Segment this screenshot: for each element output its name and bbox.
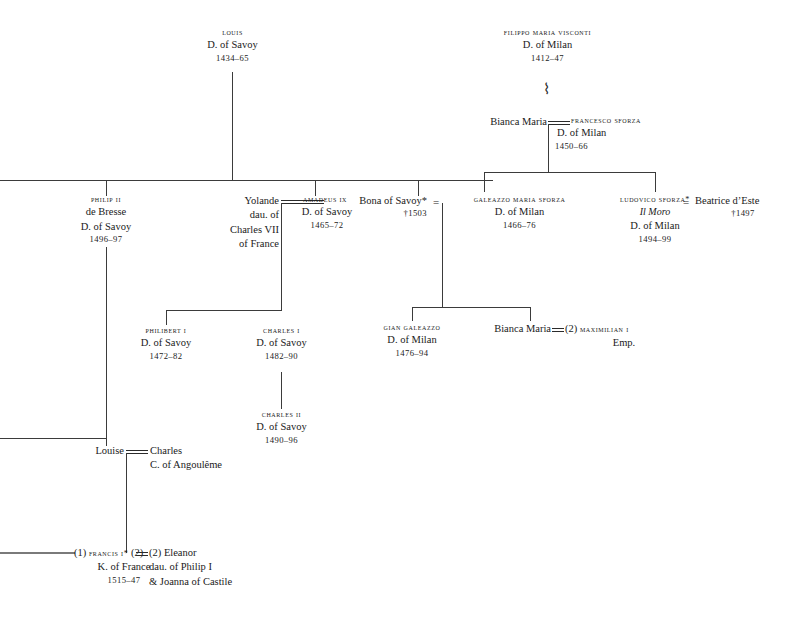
francis-i-name: FRANCIS I*: [89, 549, 128, 558]
connector-angouleme-down: [126, 453, 127, 553]
beatrice-dates: †1497: [695, 208, 791, 220]
connector-bianca-jr-up: [530, 307, 531, 321]
node-charles-i: CHARLES I D. of Savoy 1482–90: [229, 325, 334, 363]
bona-name: Bona of Savoy*: [330, 194, 427, 208]
gian-galeazzo-dates: 1476–94: [352, 348, 472, 360]
philibert-dates: 1472–82: [106, 351, 226, 363]
louis-dates: 1434–65: [165, 53, 300, 65]
node-louis: LOUIS D. of Savoy 1434–65: [165, 27, 300, 65]
node-bianca-maria-jr: Bianca Maria: [452, 322, 551, 336]
node-beatrice-deste: Beatrice d’Este †1497: [695, 194, 791, 220]
node-filippo-maria-visconti: FILIPPO MARIA VISCONTI D. of Milan 1412–…: [455, 27, 640, 65]
ludovico-realm: D. of Milan: [580, 219, 730, 233]
connector-charles-i-down: [281, 372, 282, 409]
eleanor-prefix: (2): [149, 547, 161, 558]
yolande-line3: Charles VII: [198, 223, 279, 237]
francesco-name: FRANCESCO SFORZA: [551, 115, 751, 126]
marriage-bar-francis-eleanor: [136, 552, 148, 556]
bianca-maria-sr-name: Bianca Maria: [420, 115, 547, 129]
philip-ii-name: PHILIP II: [42, 194, 170, 205]
amadeus-dates: 1465–72: [270, 220, 384, 232]
ludovico-dates: 1494–99: [580, 234, 730, 246]
yolande-name: Yolande: [198, 194, 279, 208]
philip-ii-realm: D. of Savoy: [42, 220, 170, 234]
philip-ii-dates: 1496–97: [42, 234, 170, 246]
maximilian-realm: Emp.: [583, 336, 665, 350]
charles-angouleme-realm: C. of Angoulême: [150, 458, 260, 472]
louise-name: Louise: [60, 444, 124, 458]
node-galeazzo: GALEAZZO MARIA SFORZA D. of Milan 1466–7…: [444, 194, 595, 232]
charles-i-name: CHARLES I: [229, 325, 334, 336]
node-eleanor: (2) Eleanor dau. of Philip I & Joanna of…: [149, 546, 269, 589]
eleanor-name: Eleanor: [164, 547, 197, 558]
eleanor-headline: (2) Eleanor: [149, 546, 269, 560]
louis-realm: D. of Savoy: [165, 38, 300, 52]
eleanor-line3: & Joanna of Castile: [149, 575, 269, 589]
charles-ii-realm: D. of Savoy: [229, 420, 334, 434]
connector-philibert-drop: [166, 310, 167, 325]
connector-louis-down: [232, 72, 233, 180]
louis-name: LOUIS: [165, 27, 300, 38]
maximilian-prefix: (2): [565, 323, 577, 334]
marriage-bar-bianca-maximilian: [552, 328, 564, 332]
illegitimate-descent-squiggle: ⌇: [543, 82, 550, 97]
charles-angouleme-name: Charles: [150, 444, 260, 458]
sibling-bar-sforza-children: [412, 307, 530, 308]
descent-bar-louise: [0, 438, 106, 439]
filippo-name: FILIPPO MARIA VISCONTI: [455, 27, 640, 38]
marriage-symbol-bona-galeazzo: =: [433, 197, 439, 208]
node-philibert-i: PHILIBERT I D. of Savoy 1472–82: [106, 325, 226, 363]
francis-i-prefix: (1): [74, 547, 86, 558]
philibert-name: PHILIBERT I: [106, 325, 226, 336]
bianca-maria-jr-name: Bianca Maria: [452, 322, 551, 336]
filippo-realm: D. of Milan: [455, 38, 640, 52]
marriage-bar-louise-charles: [126, 450, 148, 454]
node-yolande: Yolande dau. of Charles VII of France: [198, 194, 279, 252]
charles-i-realm: D. of Savoy: [229, 336, 334, 350]
eleanor-line2: dau. of Philip I: [149, 560, 269, 574]
node-bianca-maria-sr: Bianca Maria: [420, 115, 547, 129]
node-francesco-sforza: FRANCESCO SFORZA D. of Milan 1450–66: [551, 115, 751, 153]
connector-galeazzo-down: [442, 203, 443, 307]
node-maximilian-i: (2) MAXIMILIAN I Emp.: [565, 322, 685, 351]
galeazzo-name: GALEAZZO MARIA SFORZA: [444, 194, 595, 205]
node-charles-ii: CHARLES II D. of Savoy 1490–96: [229, 409, 334, 447]
maximilian-prefix-name: (2) MAXIMILIAN I: [565, 322, 685, 336]
maximilian-name: MAXIMILIAN I: [580, 325, 629, 334]
connector-ludovico-up: [655, 172, 656, 192]
connector-sforza-down: [548, 124, 549, 172]
connector-gian-galeazzo-up: [412, 307, 413, 321]
charles-ii-name: CHARLES II: [229, 409, 334, 420]
genealogy-chart: LOUIS D. of Savoy 1434–65 FILIPPO MARIA …: [0, 0, 793, 626]
galeazzo-dates: 1466–76: [444, 220, 595, 232]
connector-amadeus-down: [281, 203, 282, 310]
galeazzo-realm: D. of Milan: [444, 205, 595, 219]
filippo-dates: 1412–47: [455, 53, 640, 65]
francesco-dates: 1450–66: [551, 141, 751, 153]
node-charles-angouleme: Charles C. of Angoulême: [150, 444, 260, 473]
sibling-bar-savoy: [0, 180, 493, 181]
yolande-line2: dau. of: [198, 208, 279, 222]
node-philip-ii: PHILIP II de Bresse D. of Savoy 1496–97: [42, 194, 170, 246]
bona-dates: †1503: [330, 208, 427, 220]
philibert-realm: D. of Savoy: [106, 336, 226, 350]
beatrice-name: Beatrice d’Este: [695, 194, 791, 208]
yolande-line4: of France: [198, 237, 279, 251]
charles-i-dates: 1482–90: [229, 351, 334, 363]
node-louise: Louise: [60, 444, 124, 458]
node-bona-of-savoy: Bona of Savoy* †1503: [330, 194, 427, 220]
marriage-symbol-ludovico-beatrice: =: [683, 197, 689, 208]
connector-galeazzo-up: [484, 172, 485, 192]
francesco-realm: D. of Milan: [551, 126, 751, 140]
sibling-bar-savoy-children: [166, 310, 282, 311]
philip-ii-epithet: de Bresse: [42, 205, 170, 219]
descent-bar-francis: [0, 552, 75, 554]
sibling-bar-sforza: [484, 172, 656, 173]
